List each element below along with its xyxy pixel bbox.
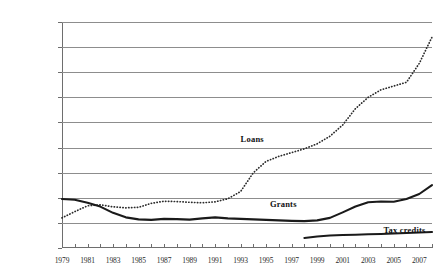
- y-tick-mark: [58, 248, 62, 249]
- series-label-grants: Grants: [270, 199, 297, 209]
- series-line-loans: [62, 37, 432, 218]
- x-tick-label: 2005: [386, 256, 401, 265]
- x-tick-label: 1983: [106, 256, 121, 265]
- series-line-grants: [62, 185, 432, 221]
- x-tick-label: 1985: [131, 256, 146, 265]
- x-tick-label: 1995: [259, 256, 274, 265]
- x-tick-label: 1981: [80, 256, 95, 265]
- x-tick-label: 1979: [55, 256, 70, 265]
- x-tick-label: 2001: [335, 256, 350, 265]
- x-tick-label: 1987: [157, 256, 172, 265]
- x-tick-label: 2003: [361, 256, 376, 265]
- series-label-tax-credits: Tax credits: [384, 225, 426, 235]
- x-tick-label: 1999: [310, 256, 325, 265]
- x-tick-label: 1993: [233, 256, 248, 265]
- plot-area: $0$10$20$30$40$50$60$70$80$90 1979198119…: [62, 22, 432, 248]
- x-tick-label: 2007: [412, 256, 427, 265]
- chart-container: $0$10$20$30$40$50$60$70$80$90 1979198119…: [0, 0, 439, 278]
- x-tick-label: 1997: [284, 256, 299, 265]
- x-tick-label: 1991: [208, 256, 223, 265]
- series-label-loans: Loans: [241, 134, 264, 144]
- x-tick-label: 1989: [182, 256, 197, 265]
- x-tick-mark: [432, 244, 433, 248]
